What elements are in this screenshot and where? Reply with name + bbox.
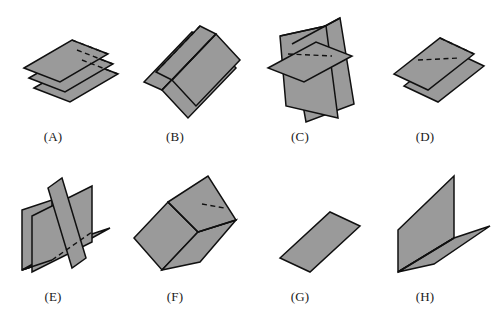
figure-a-label: (A) <box>33 129 73 145</box>
figure-e-label: (E) <box>33 289 73 305</box>
figure-b-label: (B) <box>155 129 195 145</box>
figure-h-label: (H) <box>405 289 445 305</box>
figure-e-diagram <box>18 172 126 280</box>
figure-d-label: (D) <box>405 129 445 145</box>
figure-f-label: (F) <box>155 289 195 305</box>
figure-c-diagram <box>266 10 378 125</box>
figure-c-label: (C) <box>280 129 320 145</box>
figure-d-diagram <box>388 20 496 120</box>
figure-a-diagram <box>14 12 124 122</box>
figure-b-diagram <box>140 10 252 122</box>
figure-g-label: (G) <box>280 289 320 305</box>
figure-h-diagram <box>392 172 500 280</box>
figure-g-diagram <box>272 192 370 280</box>
figure-board: (A) (B) (C) (D) <box>0 0 502 314</box>
figure-f-diagram <box>132 174 246 280</box>
